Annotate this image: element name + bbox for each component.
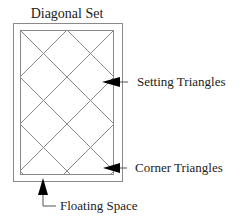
setting-triangles-callout: Setting Triangles	[102, 74, 226, 89]
svg-text:Corner Triangles: Corner Triangles	[135, 160, 223, 175]
corner-triangles-callout: Corner Triangles	[103, 160, 223, 175]
arrow-left-icon	[103, 163, 120, 173]
quilt-center	[21, 31, 114, 175]
outer-border	[14, 24, 123, 182]
floating-space-callout: Floating Space	[38, 178, 138, 213]
arrow-up-icon	[38, 178, 48, 195]
svg-text:Floating Space: Floating Space	[60, 198, 138, 213]
arrow-left-icon	[102, 77, 120, 87]
diagonal-set-diagram: Diagonal Set Setting Triangles Corner Tr…	[0, 0, 243, 217]
svg-text:Setting Triangles: Setting Triangles	[137, 74, 226, 89]
diamond-grid	[20, 30, 113, 195]
diagram-title: Diagonal Set	[31, 6, 104, 21]
